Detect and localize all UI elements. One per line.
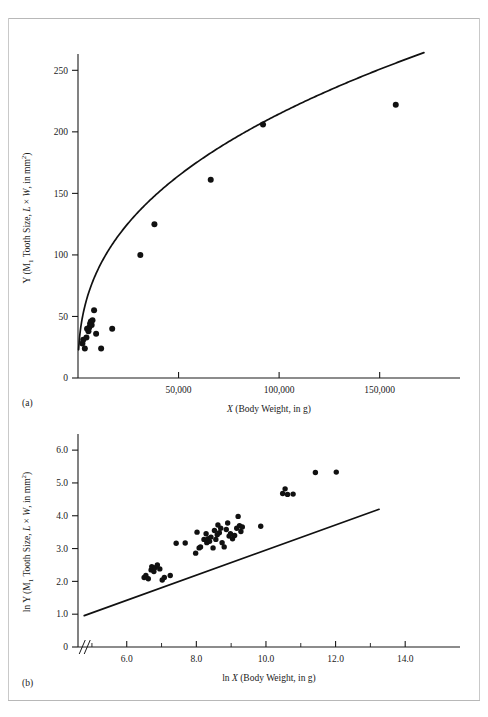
data-point: [91, 307, 97, 313]
x-tick-label: 6.0: [121, 654, 133, 664]
data-point: [334, 469, 339, 474]
data-point: [194, 529, 199, 534]
y-tick-label: 200: [54, 127, 69, 137]
data-point: [173, 541, 178, 546]
data-point: [232, 533, 237, 538]
y-tick-label: 1.0: [56, 609, 68, 619]
data-point: [221, 544, 226, 549]
panel-a: 05010015020025050,000100,000150,000X (Bo…: [0, 20, 488, 420]
panel-a-caption: (a): [22, 398, 33, 408]
x-tick-label: 8.0: [190, 654, 202, 664]
data-point: [313, 470, 318, 475]
data-point: [98, 345, 104, 351]
y-axis-title: ln Y (M1 Tooth Size, L × W, in mm2): [20, 472, 35, 612]
page-rule-bottom: [8, 700, 480, 701]
scatter-plot-panel-a: 05010015020025050,000100,000150,000X (Bo…: [0, 20, 488, 420]
data-point: [290, 491, 295, 496]
y-tick-label: 0: [63, 642, 68, 652]
data-point: [146, 576, 151, 581]
data-point: [240, 524, 245, 529]
y-axis-title: Y (M1 Tooth Size, L × W, in mm2): [20, 152, 35, 283]
x-tick-label: 10.0: [258, 654, 275, 664]
x-tick-label: 12.0: [327, 654, 344, 664]
data-point: [168, 573, 173, 578]
data-point: [210, 545, 215, 550]
x-tick-label: 150,000: [364, 385, 395, 395]
data-point: [224, 527, 229, 532]
x-axis-title: ln X (Body Weight, in g): [222, 673, 316, 684]
data-point: [280, 491, 285, 496]
y-tick-label: 6.0: [56, 445, 68, 455]
page-rule-top: [8, 18, 480, 19]
y-tick-label: 3.0: [56, 544, 68, 554]
panel-b-caption: (b): [22, 678, 33, 688]
data-point: [157, 566, 162, 571]
y-tick-label: 5.0: [56, 478, 68, 488]
data-point: [258, 524, 263, 529]
y-tick-label: 100: [54, 250, 69, 260]
data-point: [109, 326, 115, 332]
x-tick-label: 100,000: [264, 385, 295, 395]
data-point: [217, 530, 222, 535]
y-tick-label: 4.0: [56, 511, 68, 521]
data-point: [208, 534, 213, 539]
y-tick-label: 150: [54, 189, 69, 199]
x-tick-label: 14.0: [397, 654, 414, 664]
y-tick-label: 50: [59, 312, 69, 322]
data-point: [285, 492, 290, 497]
data-point: [162, 575, 167, 580]
panel-b: 01.02.03.04.05.06.06.08.010.012.014.0ln …: [0, 415, 488, 700]
data-point: [93, 331, 99, 337]
data-point: [225, 520, 230, 525]
data-point: [198, 544, 203, 549]
data-point: [151, 221, 157, 227]
data-point: [82, 345, 88, 351]
data-point: [218, 526, 223, 531]
data-point: [213, 537, 218, 542]
data-point: [137, 252, 143, 258]
y-tick-label: 2.0: [56, 577, 68, 587]
linear-fit-line: [84, 509, 379, 615]
data-point: [193, 550, 198, 555]
data-point: [89, 317, 95, 323]
data-point: [235, 514, 240, 519]
y-tick-label: 0: [63, 373, 68, 383]
y-tick-label: 250: [54, 66, 69, 76]
data-point: [238, 529, 243, 534]
data-point: [260, 121, 266, 127]
power-fit-curve: [79, 53, 424, 350]
data-point: [183, 540, 188, 545]
data-point: [208, 177, 214, 183]
x-axis-title: X (Body Weight, in g): [226, 404, 311, 415]
scatter-plot-panel-b: 01.02.03.04.05.06.06.08.010.012.014.0ln …: [0, 415, 488, 700]
data-point: [203, 531, 208, 536]
figure-page: 05010015020025050,000100,000150,000X (Bo…: [0, 0, 488, 717]
data-point: [282, 486, 287, 491]
x-tick-label: 50,000: [165, 385, 191, 395]
data-point: [393, 102, 399, 108]
data-point: [83, 334, 89, 340]
